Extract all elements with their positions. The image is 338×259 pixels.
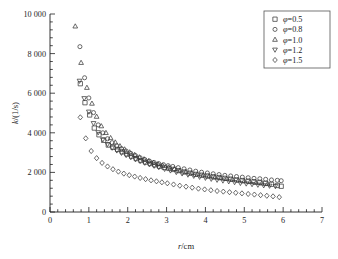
data-point bbox=[105, 164, 110, 169]
data-point bbox=[171, 182, 176, 187]
series-2 bbox=[73, 24, 270, 186]
series-3 bbox=[77, 79, 278, 189]
x-tick-label: 6 bbox=[281, 216, 285, 225]
legend-label: φ=1.2 bbox=[283, 46, 302, 55]
legend-label: φ=0.8 bbox=[283, 25, 302, 34]
data-point bbox=[221, 189, 226, 194]
data-point bbox=[94, 114, 99, 118]
y-tick-label: 4 000 bbox=[28, 129, 46, 138]
data-point bbox=[87, 96, 91, 100]
data-point bbox=[127, 173, 132, 178]
x-tick-label: 4 bbox=[203, 216, 207, 225]
data-point bbox=[83, 101, 87, 105]
y-tick-label: 8 000 bbox=[28, 50, 46, 59]
data-point bbox=[269, 178, 273, 182]
data-point bbox=[83, 76, 87, 80]
data-point bbox=[122, 171, 127, 176]
series-layer bbox=[73, 24, 283, 200]
data-point bbox=[113, 140, 118, 144]
data-point bbox=[277, 195, 282, 200]
data-point bbox=[209, 188, 214, 193]
data-point bbox=[100, 160, 105, 165]
legend-label: φ=1.5 bbox=[283, 56, 302, 65]
data-point bbox=[190, 185, 195, 190]
data-point bbox=[265, 193, 270, 198]
x-tick-label: 0 bbox=[48, 216, 52, 225]
data-point bbox=[233, 190, 238, 195]
data-point bbox=[138, 175, 143, 180]
scatter-plot: 0123456702 0004 0006 0008 00010 000r/cmk… bbox=[0, 0, 338, 259]
y-tick-label: 0 bbox=[42, 208, 46, 217]
cut-off-caption bbox=[0, 250, 338, 259]
data-point bbox=[90, 101, 95, 105]
data-point bbox=[178, 183, 183, 188]
data-point bbox=[227, 190, 232, 195]
x-tick-label: 7 bbox=[320, 216, 324, 225]
data-point bbox=[154, 179, 159, 184]
data-point bbox=[165, 181, 170, 186]
series-4 bbox=[78, 115, 281, 200]
data-point bbox=[116, 169, 121, 174]
data-point bbox=[196, 186, 201, 191]
data-point bbox=[91, 122, 96, 126]
y-tick-label: 10 000 bbox=[23, 10, 46, 19]
data-point bbox=[143, 177, 148, 182]
data-point bbox=[94, 156, 99, 161]
x-tick-label: 3 bbox=[165, 216, 169, 225]
data-point bbox=[132, 174, 137, 179]
data-point bbox=[252, 192, 257, 197]
data-point bbox=[275, 178, 279, 182]
x-tick-label: 2 bbox=[126, 216, 130, 225]
legend-label: φ=0.5 bbox=[283, 15, 302, 24]
data-point bbox=[271, 194, 276, 199]
x-tick-label: 5 bbox=[242, 216, 246, 225]
y-tick-label: 6 000 bbox=[28, 89, 46, 98]
data-point bbox=[73, 24, 78, 28]
data-point bbox=[79, 60, 84, 64]
data-point bbox=[85, 85, 90, 89]
data-point bbox=[246, 191, 251, 196]
y-tick-label: 2 000 bbox=[28, 168, 46, 177]
figure-container: 0123456702 0004 0006 0008 00010 000r/cmk… bbox=[0, 0, 338, 259]
data-point bbox=[160, 180, 165, 185]
data-point bbox=[258, 193, 263, 198]
data-point bbox=[202, 187, 207, 192]
data-point bbox=[92, 126, 96, 130]
data-point bbox=[111, 167, 116, 172]
x-tick-label: 1 bbox=[87, 216, 91, 225]
data-point bbox=[168, 169, 173, 173]
data-point bbox=[99, 124, 104, 128]
data-point bbox=[78, 115, 83, 120]
data-point bbox=[215, 188, 220, 193]
data-point bbox=[279, 179, 283, 183]
legend-label: φ=1.0 bbox=[283, 36, 302, 45]
data-point bbox=[83, 136, 88, 141]
y-axis-title: k/(1/s) bbox=[10, 102, 20, 124]
data-point bbox=[264, 177, 268, 181]
data-point bbox=[184, 184, 189, 189]
series-1 bbox=[78, 45, 283, 183]
data-point bbox=[89, 148, 94, 153]
data-point bbox=[240, 191, 245, 196]
data-point bbox=[78, 45, 82, 49]
data-point bbox=[149, 178, 154, 183]
